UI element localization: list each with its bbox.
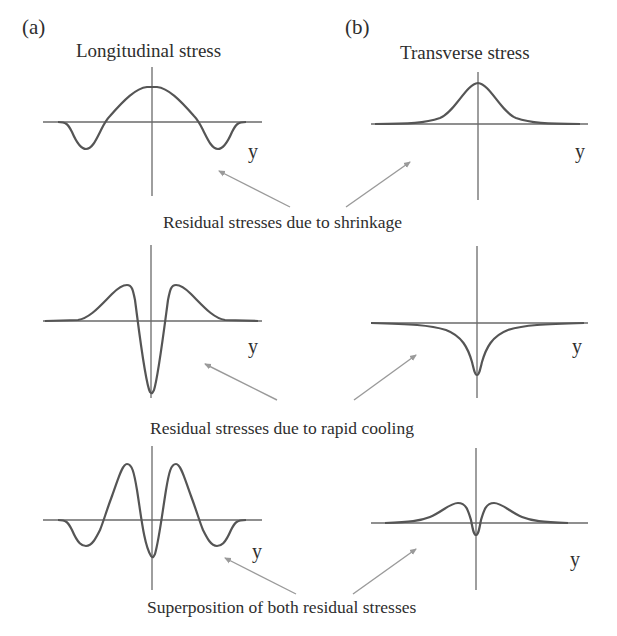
caption-superposition: Superposition of both residual stresses [147,597,416,618]
plot-longitudinal-superposition [43,446,262,590]
stress-diagram [0,0,617,636]
plot-transverse-rapid-cooling [371,246,588,398]
arrow-to-transverse [353,549,416,594]
caption-rapid-cooling: Residual stresses due to rapid cooling [150,418,414,439]
y-axis-label: y [248,140,258,163]
y-axis-label: y [570,548,580,571]
caption-shrinkage: Residual stresses due to shrinkage [163,212,402,233]
title-transverse-stress: Transverse stress [400,42,530,64]
y-axis-label: y [252,540,262,563]
y-axis-label: y [575,140,585,163]
panel-letter-a: (a) [22,15,45,40]
arrow-to-transverse [346,162,410,207]
arrows-shrinkage [219,162,410,207]
arrows-rapid-cooling [205,355,416,400]
plot-transverse-shrinkage [371,72,588,200]
y-axis-label: y [572,335,582,358]
arrow-to-transverse [354,355,416,400]
plot-longitudinal-rapid-cooling [43,245,262,398]
title-longitudinal-stress: Longitudinal stress [76,40,221,62]
arrow-to-longitudinal [219,171,290,207]
panel-letter-b: (b) [345,15,370,40]
y-axis-label: y [248,335,258,358]
plot-transverse-superposition [371,448,588,590]
arrow-to-longitudinal [205,364,277,400]
arrow-to-longitudinal [225,558,296,594]
